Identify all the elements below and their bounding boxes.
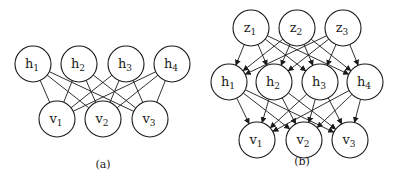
node-v1: v1 — [239, 122, 275, 158]
diagram-figure: h1h2h3h4v1v2v3 (a) z1z2z3h1h2h3h4v1v2v3 … — [0, 0, 395, 182]
node-v3: v3 — [332, 122, 368, 158]
edge-b_z1-b_h1 — [236, 45, 244, 66]
edge-b_h3-b_v2 — [309, 99, 315, 122]
caption-b: (b) — [294, 155, 310, 168]
edge-b_z3-b_h4 — [350, 45, 358, 66]
node-z3: z3 — [325, 10, 361, 46]
nodes-b: z1z2z3h1h2h3h4v1v2v3 — [211, 10, 383, 158]
nodes-a: h1h2h3h4v1v2v3 — [15, 46, 190, 137]
panel-a-undirected-rbm: h1h2h3h4v1v2v3 (a) — [15, 46, 190, 171]
node-h4: h4 — [347, 64, 383, 100]
node-h1: h1 — [15, 46, 51, 82]
node-z1: z1 — [233, 10, 269, 46]
node-z2: z2 — [279, 10, 315, 46]
node-h1: h1 — [211, 64, 247, 100]
node-v2: v2 — [85, 101, 121, 137]
edge-b_h4-b_v3 — [355, 99, 361, 122]
node-h2: h2 — [256, 64, 292, 100]
edge-a_h4-a_v3 — [157, 81, 166, 103]
node-h3: h3 — [108, 46, 144, 82]
edge-a_h1-a_v1 — [40, 80, 50, 102]
node-v1: v1 — [39, 101, 75, 137]
node-v2: v2 — [286, 122, 322, 158]
edge-b_h2-b_v1 — [262, 99, 269, 122]
node-v3: v3 — [132, 101, 168, 137]
edge-a_h2-a_v1 — [64, 81, 73, 103]
caption-a: (a) — [95, 158, 110, 171]
node-h2: h2 — [61, 46, 97, 82]
edges-b — [236, 36, 361, 133]
panel-b-directed-network: z1z2z3h1h2h3h4v1v2v3 (b) — [211, 10, 383, 168]
node-h4: h4 — [154, 46, 190, 82]
node-h3: h3 — [302, 64, 338, 100]
edge-b_h1-b_v1 — [237, 98, 249, 124]
edge-b_z3-b_h3 — [327, 45, 336, 66]
